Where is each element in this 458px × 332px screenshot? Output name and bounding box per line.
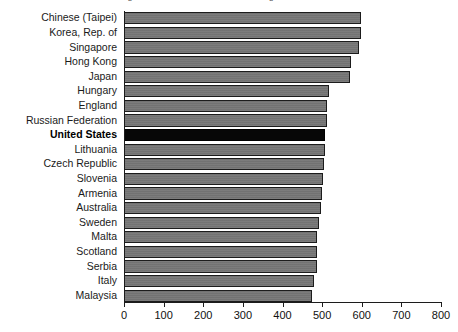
bar-australia <box>124 202 321 214</box>
category-label: Scotland <box>76 246 117 257</box>
bar-czech-republic <box>124 158 324 170</box>
bar-row <box>124 71 441 83</box>
x-tick-mark <box>362 303 363 307</box>
x-tick-mark <box>401 303 402 307</box>
bar-row <box>124 260 441 272</box>
bar-row <box>124 41 441 53</box>
bar-row <box>124 231 441 243</box>
bar-slovenia <box>124 173 323 185</box>
category-label: Slovenia <box>77 173 117 184</box>
bar-hong-kong <box>124 56 351 68</box>
chart-title: Average Mathematics Achievement of Eight… <box>0 0 458 1</box>
bar-serbia <box>124 260 317 272</box>
bar-japan <box>124 71 350 83</box>
x-tick-mark <box>203 303 204 307</box>
bar-row <box>124 290 441 302</box>
bar-sweden <box>124 217 319 229</box>
category-label: England <box>78 100 117 111</box>
bar-italy <box>124 275 314 287</box>
bar-united-states <box>124 129 325 141</box>
category-label: Malta <box>91 231 117 242</box>
x-tick-label: 0 <box>121 309 127 321</box>
bar-row <box>124 158 441 170</box>
x-tick-mark <box>243 303 244 307</box>
x-tick-label: 400 <box>273 309 291 321</box>
bar-row <box>124 100 441 112</box>
x-tick-label: 300 <box>234 309 252 321</box>
x-tick-mark <box>322 303 323 307</box>
category-label: Hungary <box>77 85 117 96</box>
bar-row <box>124 144 441 156</box>
bar-row <box>124 187 441 199</box>
bar-row <box>124 173 441 185</box>
bar-malaysia <box>124 290 312 302</box>
bar-row <box>124 27 441 39</box>
category-label: United States <box>50 129 117 140</box>
x-tick-mark <box>283 303 284 307</box>
category-label: Lithuania <box>74 144 117 155</box>
bar-chinese-taipei <box>124 12 361 24</box>
category-label: Singapore <box>69 42 117 53</box>
x-tick-label: 800 <box>432 309 450 321</box>
bar-singapore <box>124 41 359 53</box>
category-label: Chinese (Taipei) <box>41 12 117 23</box>
bar-row <box>124 246 441 258</box>
category-label: Serbia <box>87 261 117 272</box>
bar-chart: Average Mathematics Achievement of Eight… <box>0 0 458 332</box>
x-tick-mark <box>441 303 442 307</box>
category-label: Russian Federation <box>26 115 117 126</box>
x-tick-label: 100 <box>154 309 172 321</box>
bar-row <box>124 129 441 141</box>
x-tick-label: 500 <box>313 309 331 321</box>
bar-row <box>124 217 441 229</box>
bar-hungary <box>124 85 329 97</box>
category-label: Korea, Rep. of <box>49 27 117 38</box>
category-label: Armenia <box>78 188 117 199</box>
bar-england <box>124 100 327 112</box>
bar-armenia <box>124 187 322 199</box>
category-axis-labels: Chinese (Taipei)Korea, Rep. ofSingaporeH… <box>0 11 120 303</box>
category-label: Sweden <box>79 217 117 228</box>
category-label: Italy <box>98 275 117 286</box>
category-label: Malaysia <box>76 290 117 301</box>
bar-row <box>124 275 441 287</box>
bar-row <box>124 114 441 126</box>
x-tick-mark <box>124 303 125 307</box>
bar-korea-rep-of <box>124 27 361 39</box>
bar-scotland <box>124 246 317 258</box>
category-axis-line <box>124 11 125 303</box>
x-tick-label: 600 <box>353 309 371 321</box>
bar-row <box>124 202 441 214</box>
x-tick-label: 200 <box>194 309 212 321</box>
plot-area <box>124 11 441 303</box>
x-tick-label: 700 <box>392 309 410 321</box>
bar-lithuania <box>124 144 325 156</box>
category-label: Czech Republic <box>43 158 117 169</box>
category-label: Japan <box>88 71 117 82</box>
bar-russian-federation <box>124 114 327 126</box>
x-tick-mark <box>164 303 165 307</box>
category-label: Australia <box>76 202 117 213</box>
bar-malta <box>124 231 317 243</box>
bar-row <box>124 12 441 24</box>
bar-row <box>124 85 441 97</box>
category-label: Hong Kong <box>64 56 117 67</box>
bar-row <box>124 56 441 68</box>
